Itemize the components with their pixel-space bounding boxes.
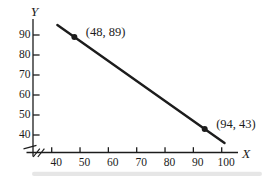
line-series: (48, 89)(94, 43) (57, 25, 255, 144)
y-tick-label: 80 (19, 48, 31, 60)
x-axis-label: X (241, 146, 251, 161)
x-tick-label: 90 (192, 156, 204, 168)
data-point (71, 34, 77, 40)
line-graph-figure: 908070605040 405060708090100 (48, 89)(94… (0, 0, 270, 178)
x-tick-label: 70 (135, 156, 147, 168)
x-ticks: 405060708090100 (50, 147, 235, 168)
data-point (202, 126, 208, 132)
y-tick-label: 60 (19, 88, 31, 100)
data-line (57, 25, 224, 143)
x-tick-label: 60 (107, 156, 119, 168)
y-tick-label: 50 (19, 108, 31, 120)
y-axis-label: Y (31, 4, 40, 19)
y-tick-label: 90 (19, 28, 31, 40)
x-tick-label: 100 (218, 156, 236, 168)
y-tick-label: 70 (19, 68, 31, 80)
axes (24, 19, 239, 157)
y-ticks: 908070605040 (19, 28, 40, 140)
point-label: (94, 43) (216, 117, 256, 131)
x-tick-label: 80 (164, 156, 176, 168)
x-tick-label: 40 (50, 156, 62, 168)
y-axis-break-icon (24, 145, 37, 149)
scan-smudge (32, 172, 262, 176)
y-tick-label: 40 (19, 128, 31, 140)
point-label: (48, 89) (86, 25, 126, 39)
plot-canvas: 908070605040 405060708090100 (48, 89)(94… (0, 0, 270, 178)
x-tick-label: 50 (79, 156, 91, 168)
